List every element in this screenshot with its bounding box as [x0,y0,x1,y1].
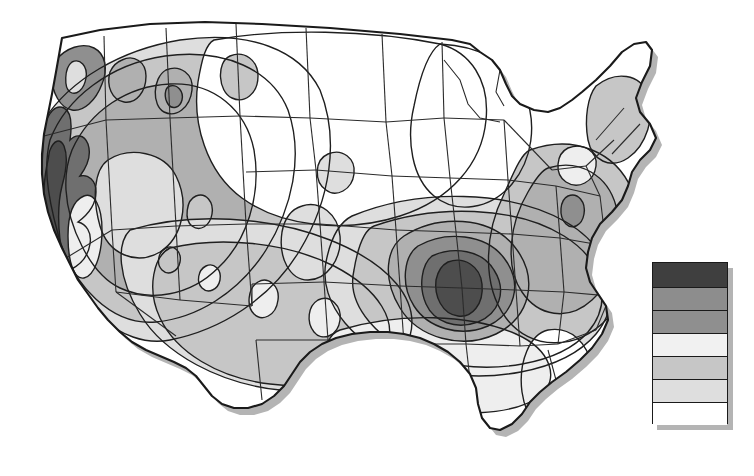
legend-band-6 [653,380,727,403]
figure-canvas [0,0,754,476]
legend-band-7 [653,403,727,425]
legend-band-1 [653,263,727,288]
legend-band-4 [653,334,727,357]
contour-bands [38,24,650,437]
legend [652,262,734,431]
us-contour-map [0,0,754,476]
legend-band-2 [653,288,727,311]
legend-band-5 [653,357,727,380]
legend-band-3 [653,311,727,334]
legend-swatch-stack [652,262,728,424]
